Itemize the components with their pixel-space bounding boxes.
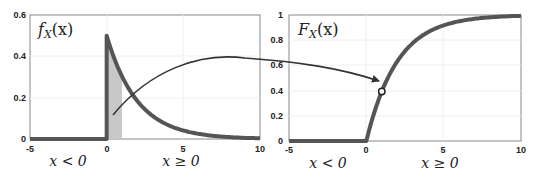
cdf-ytick: 0: [278, 136, 283, 146]
pdf-region-left-label: x < 0: [49, 153, 87, 169]
pdf-ytick: 0.4: [13, 51, 26, 61]
pdf-ytick: 0.6: [13, 10, 26, 20]
cdf-plot: 0 0.2 0.4 0.6 0.8 1 -5 0 5 10 FX(x) x < …: [270, 10, 526, 171]
cdf-region-left-label: x < 0: [309, 155, 347, 171]
figure: 0 0.2 0.4 0.6 -5 0 5 10 fX(x) x < 0 x ≥ …: [0, 0, 539, 177]
cdf-xtick: 0: [363, 145, 368, 155]
cdf-marker-point: [379, 88, 385, 94]
pdf-title: fX(x): [37, 20, 73, 41]
pdf-ytick: 0: [21, 134, 26, 144]
cdf-xtick: 5: [440, 145, 445, 155]
pdf-xtick: 0: [104, 144, 109, 154]
pdf-region-right-label: x ≥ 0: [162, 153, 200, 169]
cdf-ytick: 0.8: [270, 35, 283, 45]
pdf-ytick: 0.2: [13, 93, 26, 103]
cdf-ytick: 0.4: [270, 86, 283, 96]
cdf-region-right-label: x ≥ 0: [421, 155, 459, 171]
cdf-xtick: -5: [285, 145, 293, 155]
cdf-ytick: 0.2: [270, 111, 283, 121]
cdf-ytick: 1: [278, 10, 283, 20]
pdf-xtick: -5: [26, 144, 34, 154]
pdf-xtick: 10: [255, 144, 265, 154]
cdf-title: FX(x): [297, 20, 338, 41]
cdf-xtick: 10: [516, 145, 526, 155]
